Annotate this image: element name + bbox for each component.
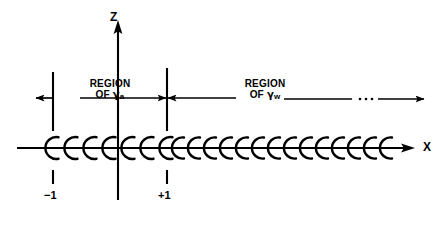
tick-label-minus-one: −1: [44, 190, 57, 201]
gamma-symbol-w: γ: [267, 89, 274, 100]
z-axis-label: Z: [110, 11, 118, 23]
region-a-line2: OF γa: [83, 90, 137, 100]
gamma-symbol-a: γ: [113, 89, 120, 100]
region-w-dimension-arrows: [168, 98, 424, 101]
x-axis: [17, 143, 415, 152]
vortex-distribution-diagram: [0, 0, 441, 232]
region-w-of-text: OF: [250, 89, 267, 100]
continuation-dots: [359, 98, 374, 101]
gamma-subscript-w: w: [274, 92, 280, 101]
x-axis-label: X: [423, 141, 431, 153]
region-w-line1: REGION: [245, 78, 286, 89]
region-a-line1: REGION: [90, 78, 131, 89]
tick-label-plus-one: +1: [158, 190, 171, 201]
gamma-subscript-a: a: [120, 92, 125, 101]
z-axis: [114, 20, 123, 200]
region-w-line2: OF γw: [238, 90, 292, 100]
region-label-gamma-w: REGION OF γw: [238, 79, 292, 100]
region-a-of-text: OF: [96, 89, 113, 100]
region-label-gamma-a: REGION OF γa: [83, 79, 137, 100]
